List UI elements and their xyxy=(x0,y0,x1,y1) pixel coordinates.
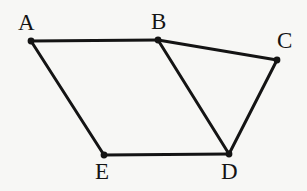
vertex-label-A: A xyxy=(18,11,35,34)
vertex-dot-A xyxy=(28,38,35,45)
edge-BD-diagonal xyxy=(158,40,229,154)
edge-group xyxy=(31,40,277,155)
vertex-label-E: E xyxy=(95,160,109,183)
edge-AB xyxy=(31,40,158,41)
vertex-label-D: D xyxy=(221,160,238,183)
edge-DE xyxy=(104,154,229,155)
vertex-dot-D xyxy=(226,151,233,158)
edge-BC xyxy=(158,40,277,60)
vertex-label-C: C xyxy=(277,29,292,52)
edge-EA xyxy=(31,41,104,155)
vertex-dot-C xyxy=(274,57,281,64)
vertex-label-B: B xyxy=(151,10,166,33)
edge-CD xyxy=(229,60,277,154)
vertex-dot-E xyxy=(101,152,108,159)
geometry-figure: A B C D E xyxy=(0,0,307,191)
vertex-dot-B xyxy=(155,37,162,44)
